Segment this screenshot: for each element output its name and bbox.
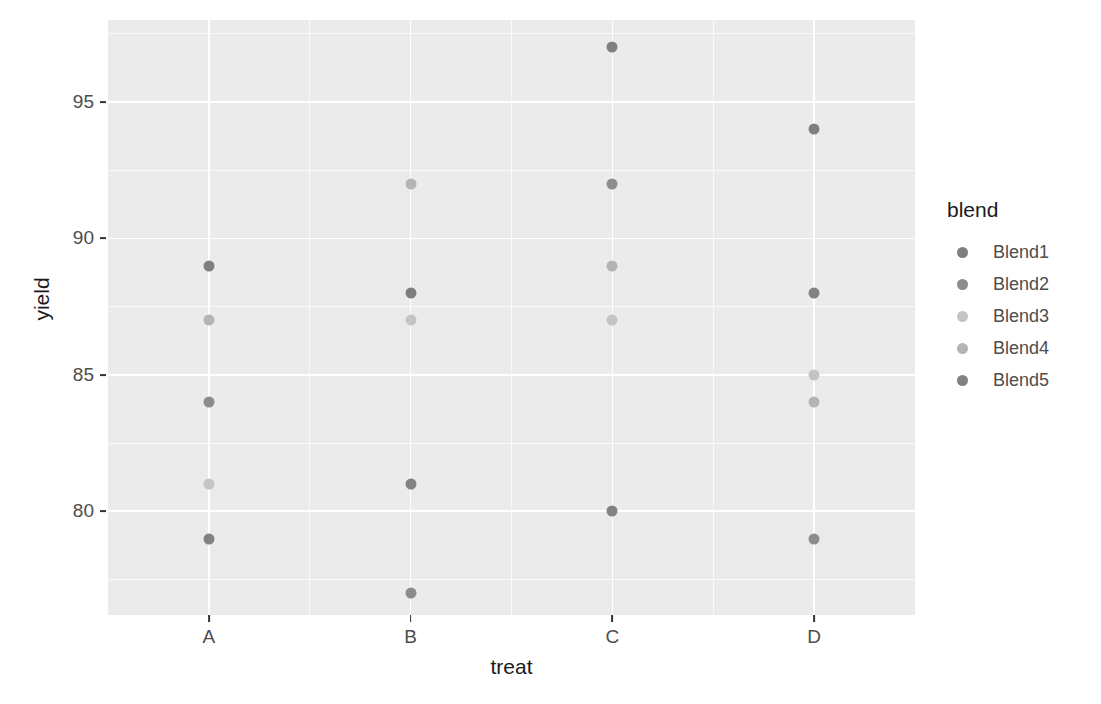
data-point bbox=[405, 478, 416, 489]
legend-item-label: Blend4 bbox=[993, 338, 1049, 359]
legend-item[interactable]: Blend3 bbox=[947, 300, 1097, 332]
y-tick-label: 80 bbox=[73, 500, 94, 522]
x-tick-mark bbox=[813, 615, 815, 622]
legend-item[interactable]: Blend1 bbox=[947, 236, 1097, 268]
data-point bbox=[607, 315, 618, 326]
data-point bbox=[809, 533, 820, 544]
legend-items: Blend1Blend2Blend3Blend4Blend5 bbox=[947, 236, 1097, 396]
data-point bbox=[203, 478, 214, 489]
y-tick-mark bbox=[100, 101, 106, 103]
legend-key-icon bbox=[947, 237, 977, 267]
legend-key-icon bbox=[947, 365, 977, 395]
legend-item[interactable]: Blend5 bbox=[947, 364, 1097, 396]
legend-dot-icon bbox=[957, 247, 968, 258]
legend-item-label: Blend5 bbox=[993, 370, 1049, 391]
y-tick-label: 95 bbox=[73, 91, 94, 113]
data-point bbox=[809, 287, 820, 298]
y-tick-mark bbox=[100, 510, 106, 512]
x-tick-label: A bbox=[203, 626, 216, 648]
gridline-minor-vertical bbox=[511, 20, 512, 615]
legend-key-icon bbox=[947, 301, 977, 331]
y-axis-title: yield bbox=[30, 239, 54, 359]
data-point bbox=[203, 397, 214, 408]
chart-root: 80859095 ABCD treat yield blend Blend1Bl… bbox=[0, 0, 1101, 704]
legend-item[interactable]: Blend2 bbox=[947, 268, 1097, 300]
x-axis-title: treat bbox=[108, 655, 915, 679]
legend: blend Blend1Blend2Blend3Blend4Blend5 bbox=[947, 198, 1097, 396]
legend-key-icon bbox=[947, 333, 977, 363]
data-point bbox=[203, 315, 214, 326]
data-point bbox=[809, 124, 820, 135]
y-tick-label: 85 bbox=[73, 364, 94, 386]
y-tick-mark bbox=[100, 374, 106, 376]
x-tick-label: D bbox=[807, 626, 821, 648]
legend-item-label: Blend3 bbox=[993, 306, 1049, 327]
legend-title: blend bbox=[947, 198, 1097, 222]
data-point bbox=[607, 506, 618, 517]
data-point bbox=[405, 315, 416, 326]
legend-item-label: Blend2 bbox=[993, 274, 1049, 295]
plot-panel bbox=[108, 20, 915, 615]
legend-dot-icon bbox=[957, 311, 968, 322]
x-tick-label: C bbox=[606, 626, 620, 648]
data-point bbox=[809, 369, 820, 380]
data-point bbox=[405, 287, 416, 298]
x-tick-mark bbox=[410, 615, 412, 622]
data-point bbox=[405, 178, 416, 189]
data-point bbox=[607, 178, 618, 189]
data-point bbox=[607, 260, 618, 271]
data-point bbox=[405, 588, 416, 599]
gridline-major-vertical bbox=[813, 20, 815, 615]
x-tick-mark bbox=[208, 615, 210, 622]
legend-item-label: Blend1 bbox=[993, 242, 1049, 263]
legend-dot-icon bbox=[957, 343, 968, 354]
x-tick-mark bbox=[611, 615, 613, 622]
x-tick-label: B bbox=[404, 626, 417, 648]
legend-dot-icon bbox=[957, 375, 968, 386]
y-tick-label: 90 bbox=[73, 227, 94, 249]
y-axis: 80859095 bbox=[56, 20, 94, 615]
gridline-minor-vertical bbox=[713, 20, 714, 615]
legend-item[interactable]: Blend4 bbox=[947, 332, 1097, 364]
data-point bbox=[607, 42, 618, 53]
gridline-minor-vertical bbox=[309, 20, 310, 615]
y-tick-mark bbox=[100, 237, 106, 239]
plot-area bbox=[108, 20, 915, 615]
data-point bbox=[203, 533, 214, 544]
legend-dot-icon bbox=[957, 279, 968, 290]
legend-key-icon bbox=[947, 269, 977, 299]
data-point bbox=[809, 397, 820, 408]
data-point bbox=[203, 260, 214, 271]
